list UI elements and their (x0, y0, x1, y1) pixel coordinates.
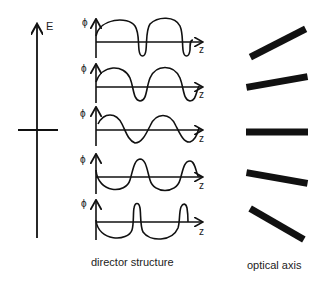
director-structure-caption: director structure (91, 256, 174, 268)
plot-1-y-label: ϕ (82, 17, 88, 28)
plot-4-x-label: z (199, 180, 204, 191)
optical-axis-bar-4 (246, 169, 308, 187)
director-plot-2 (96, 65, 202, 103)
plot-2-x-label: z (199, 89, 204, 100)
director-plot-4 (96, 155, 202, 194)
plot-2-y-label: ϕ (81, 63, 87, 74)
plot-5-x-label: z (199, 226, 204, 237)
plot-4-y-label: ϕ (80, 154, 86, 165)
diagram-canvas (0, 0, 325, 283)
plot-3-x-label: z (199, 133, 204, 144)
optical-axis-caption: optical axis (247, 259, 301, 271)
plot-3-y-label: ϕ (80, 108, 86, 119)
director-plot-5 (96, 201, 202, 240)
optical-axis-bars (246, 26, 308, 243)
optical-axis-bar-3 (246, 129, 308, 136)
field-axis-label: E (46, 20, 53, 32)
director-plot-1 (96, 18, 202, 58)
electric-field-axis (18, 25, 58, 238)
plot-1-x-label: z (199, 44, 204, 55)
optical-axis-bar-2 (246, 73, 308, 91)
plot-5-y-label: ϕ (81, 198, 87, 209)
director-plot-3 (96, 108, 202, 146)
optical-axis-bar-1 (249, 26, 307, 60)
optical-axis-bar-5 (248, 205, 305, 242)
